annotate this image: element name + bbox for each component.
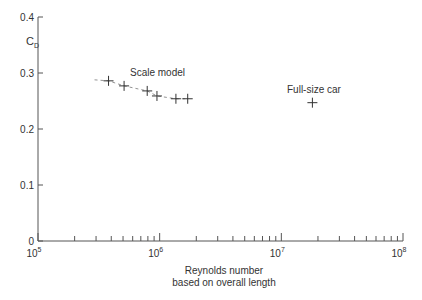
chart: 00.10.20.30.4105106107108 CD Scale model… <box>0 0 422 300</box>
y-tick-label: 0.4 <box>20 12 34 23</box>
annotation-scale-model: Scale model <box>130 67 185 78</box>
y-tick-label: 0.1 <box>20 180 34 191</box>
x-tick-label: 108 <box>391 246 406 259</box>
x-axis-label-line1: Reynolds number <box>185 265 264 276</box>
y-tick-label: 0 <box>28 236 34 247</box>
data-points <box>95 76 318 108</box>
annotation-full-size-car: Full-size car <box>287 84 342 95</box>
x-tick-label: 107 <box>270 246 285 259</box>
axes: 00.10.20.30.4105106107108 <box>20 12 407 259</box>
y-tick-label: 0.2 <box>20 124 34 135</box>
x-axis-label-line2: based on overall length <box>172 277 275 288</box>
x-tick-label: 106 <box>148 246 163 259</box>
y-tick-label: 0.3 <box>20 68 34 79</box>
x-tick-label: 105 <box>26 246 41 259</box>
y-axis-label: CD <box>26 35 39 49</box>
